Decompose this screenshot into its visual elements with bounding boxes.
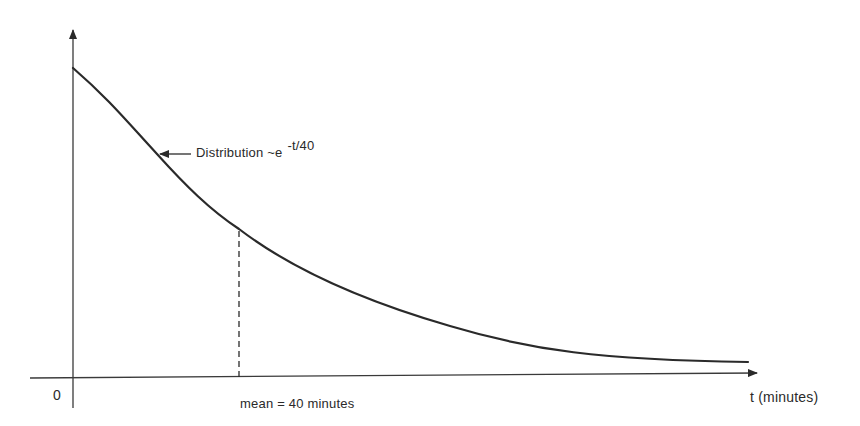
mean-label: mean = 40 minutes bbox=[240, 397, 354, 410]
x-axis-label: t (minutes) bbox=[750, 390, 818, 404]
distribution-annotation-text: Distribution ~e bbox=[196, 145, 282, 160]
distribution-curve bbox=[73, 68, 748, 362]
x-axis bbox=[30, 373, 757, 378]
distribution-annotation: Distribution ~e-t/40 bbox=[196, 146, 314, 159]
distribution-exponent: -t/40 bbox=[287, 138, 314, 153]
origin-label: 0 bbox=[53, 388, 61, 402]
exponential-distribution-figure: Distribution ~e-t/40 0 mean = 40 minutes… bbox=[0, 0, 860, 426]
plot-canvas bbox=[0, 0, 860, 426]
